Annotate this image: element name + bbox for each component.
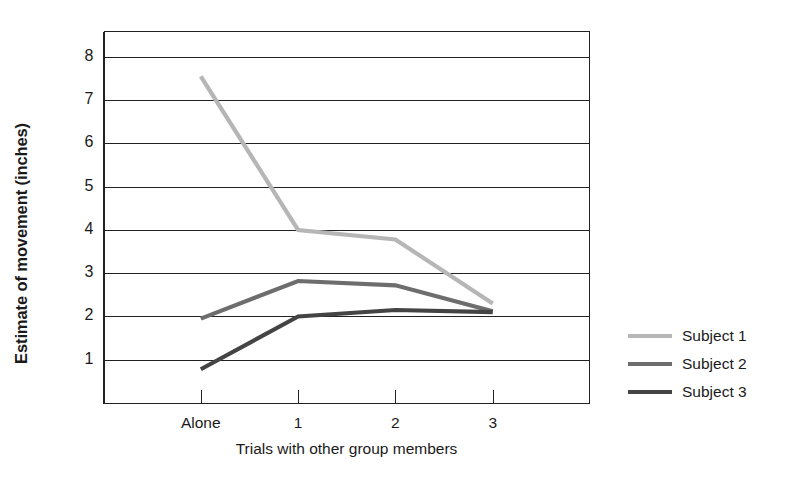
chart-legend: Subject 1 Subject 2 Subject 3 (628, 322, 747, 406)
y-tick-label-8: 8 (68, 48, 94, 64)
line-chart-canvas (0, 0, 804, 487)
legend-swatch-subject-2 (628, 362, 672, 366)
legend-item-subject-3: Subject 3 (628, 378, 747, 406)
y-tick-label-5: 5 (68, 178, 94, 194)
y-tick-label-7: 7 (68, 91, 94, 107)
y-tick-label-4: 4 (68, 221, 94, 237)
y-axis-title: Estimate of movement (inches) (14, 0, 60, 487)
x-tick-label-alone: Alone (156, 415, 246, 431)
y-tickmarks-group (104, 58, 114, 361)
y-tick-label-2: 2 (68, 307, 94, 323)
legend-item-subject-1: Subject 1 (628, 322, 747, 350)
y-tick-label-1: 1 (68, 351, 94, 367)
x-tick-label-3: 3 (448, 415, 538, 431)
legend-swatch-subject-3 (628, 390, 672, 394)
legend-label-subject-1: Subject 1 (682, 327, 747, 345)
data-series-group (201, 76, 493, 369)
chart-figure: 12345678 Alone123 Estimate of movement (… (0, 0, 804, 487)
axis-frame-group (104, 32, 591, 404)
series-line-subject-1 (201, 76, 493, 303)
x-tick-label-2: 2 (350, 415, 440, 431)
y-tick-label-3: 3 (68, 264, 94, 280)
y-tick-label-6: 6 (68, 134, 94, 150)
legend-swatch-subject-1 (628, 334, 672, 338)
x-tick-label-1: 1 (253, 415, 343, 431)
legend-label-subject-2: Subject 2 (682, 355, 747, 373)
x-axis-title: Trials with other group members (103, 440, 590, 458)
legend-label-subject-3: Subject 3 (682, 383, 747, 401)
legend-item-subject-2: Subject 2 (628, 350, 747, 378)
x-tickmarks-group (202, 390, 494, 403)
